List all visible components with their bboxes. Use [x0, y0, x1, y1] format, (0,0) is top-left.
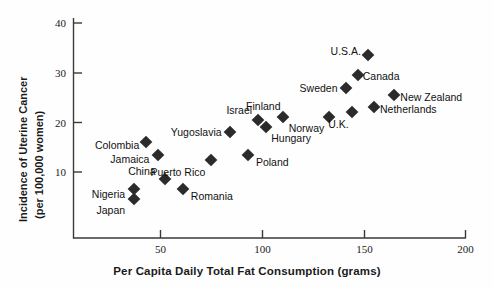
- x-tick-label: 50: [155, 243, 166, 255]
- y-axis-title: Incidence of Uterine Cancer: [16, 77, 31, 223]
- plot-area: 40 30 20 10 50 100 150 200 Per Capita Da…: [0, 0, 494, 290]
- data-point-label: Poland: [256, 156, 289, 168]
- y-axis-title-line2: (per 100,000 women): [33, 111, 45, 219]
- x-axis-title: Per Capita Daily Total Fat Consumption (…: [0, 265, 494, 277]
- data-point-label: Sweden: [300, 82, 338, 94]
- data-point-label: Yugoslavia: [171, 126, 222, 138]
- data-point-label: Netherlands: [380, 103, 437, 115]
- data-point-label: Finland: [246, 100, 280, 112]
- axis-lines: [0, 0, 494, 290]
- y-tick-label: 40: [42, 17, 66, 29]
- data-point-label: Norway: [289, 122, 325, 134]
- data-point-label: Nigeria: [92, 188, 125, 200]
- data-point-label: Canada: [363, 70, 400, 82]
- data-point-label: New Zealand: [400, 91, 462, 103]
- data-point-label: Romania: [191, 190, 233, 202]
- data-point-label: U.S.A.: [331, 45, 361, 57]
- data-point-label: Puerto Rico: [150, 166, 205, 178]
- y-axis-title-line1: Incidence of Uterine Cancer: [17, 77, 29, 223]
- data-point-label: Colombia: [95, 139, 139, 151]
- data-point-label: Jamaica: [110, 153, 149, 165]
- x-tick-label: 150: [356, 243, 373, 255]
- y-axis-title-sub: (per 100,000 women): [32, 111, 47, 219]
- x-tick-label: 100: [254, 243, 271, 255]
- data-point-label: Japan: [96, 204, 125, 216]
- y-tick-label: 30: [42, 67, 66, 79]
- scatter-plot-figure: 40 30 20 10 50 100 150 200 Per Capita Da…: [0, 0, 494, 290]
- data-point-label: U.K.: [328, 118, 348, 130]
- x-tick-label: 200: [457, 243, 474, 255]
